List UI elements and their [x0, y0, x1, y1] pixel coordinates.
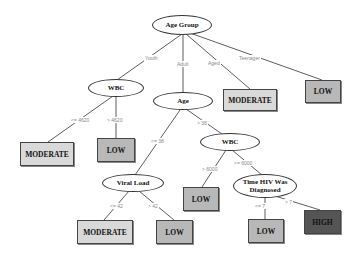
node-label: WBC [108, 84, 125, 92]
leaf-label: MODERATE [25, 150, 69, 159]
leaf-moderate-wbc-le: MODERATE [20, 142, 74, 166]
edge-label-vl-gt: > 42 [147, 203, 159, 209]
leaf-label: MODERATE [83, 228, 127, 237]
leaf-label: LOW [314, 87, 332, 96]
node-wbc-adult: WBC [200, 133, 260, 151]
leaf-low-teenager: LOW [305, 80, 341, 103]
edge-label-age-le: <= 38 [150, 138, 165, 144]
node-age-group: Age Group [152, 15, 212, 35]
leaf-label: MODERATE [228, 96, 272, 105]
edge-time-gt [275, 196, 320, 210]
edge-label-vl-le: <= 42 [109, 203, 124, 209]
node-age: Age [153, 92, 213, 110]
leaf-moderate-aged: MODERATE [223, 89, 277, 111]
edge-label-adult: Adult [176, 61, 189, 67]
node-viral-load: Viral Load [102, 174, 164, 192]
edge-label-teenager: Teenager [238, 55, 261, 61]
leaf-label: LOW [257, 227, 275, 236]
edge-label-youth: Youth [144, 55, 159, 61]
node-time-hiv-diagnosed: Time HIV Was Diagnosed [233, 174, 297, 198]
leaf-label: LOW [165, 228, 183, 237]
leaf-low-time-le: LOW [248, 219, 284, 243]
edge-label-time-le: <= 7 [254, 203, 266, 209]
edge-label-wbc-le: <= 4620 [70, 117, 90, 123]
edge-label-time-gt: > 7 [284, 199, 293, 205]
node-wbc-youth: WBC [88, 79, 144, 97]
leaf-low-wbc-gt: LOW [97, 138, 135, 162]
edge-label-wbc2-gt: > 6000 [201, 166, 218, 172]
node-label: Age [177, 97, 189, 105]
leaf-label: LOW [192, 195, 210, 204]
edge-label-age-gt: > 38 [196, 120, 208, 126]
node-label: Age Group [165, 21, 198, 29]
leaf-moderate-vl-le: MODERATE [77, 220, 133, 244]
leaf-high-time-gt: HIGH [304, 210, 341, 234]
leaf-low-wbc2-gt: LOW [183, 187, 219, 211]
leaf-label: LOW [107, 146, 125, 155]
node-label: WBC [222, 138, 239, 146]
node-label: Viral Load [117, 179, 150, 187]
node-label: Time HIV Was Diagnosed [240, 178, 290, 194]
edge-label-wbc-gt: > 4620 [106, 117, 123, 123]
edge-label-wbc2-le: <= 6000 [233, 160, 253, 166]
edge-label-aged: Aged [207, 60, 221, 66]
leaf-low-vl-gt: LOW [156, 220, 193, 244]
leaf-label: HIGH [312, 218, 332, 227]
